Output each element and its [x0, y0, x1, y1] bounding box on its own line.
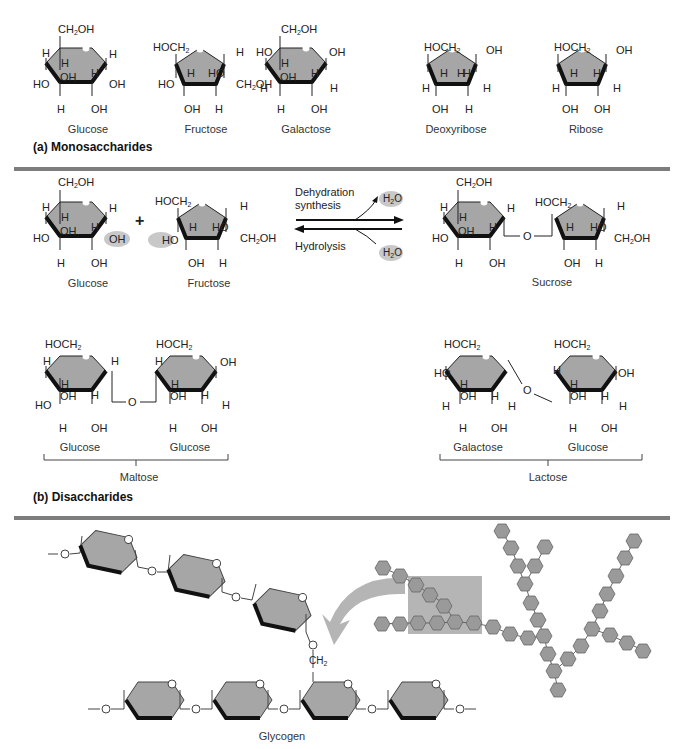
reactant-fructose-label: Fructose: [188, 277, 231, 289]
monosaccharides-section-title: (a) Monosaccharides: [33, 140, 152, 154]
reactant-glucose-ring: [46, 190, 106, 250]
fructose-label: Fructose: [185, 123, 228, 135]
plus-sign: +: [135, 212, 144, 230]
reactant-glucose-label: Glucose: [68, 277, 108, 289]
section-separator: [14, 516, 670, 520]
galactose-label: Galactose: [281, 123, 331, 135]
section-separator: [14, 167, 670, 171]
galactose-ring: [266, 36, 326, 96]
carbohydrate-diagram: CH2OH HH HOH HHO OHH OH HOCH2H HHO HOCH2…: [0, 0, 682, 749]
glycogen-branch-tree: [374, 524, 651, 697]
lactose-unit2-label: Glucose: [568, 441, 608, 453]
lactose-label: Lactose: [529, 471, 568, 483]
lactose-unit1-label: Galactose: [453, 441, 503, 453]
hydrolysis-label: Hydrolysis: [295, 240, 346, 252]
dehydration-label-line2: synthesis: [295, 199, 341, 211]
ch2-branch-label: CH2: [309, 655, 327, 667]
glycogen-label: Glycogen: [259, 730, 305, 742]
sucrose-label: Sucrose: [532, 276, 572, 288]
water-reactant-label: H2O: [383, 247, 402, 259]
maltose-label: Maltose: [120, 471, 159, 483]
zoom-arrow: [322, 578, 405, 645]
disaccharides-section-title: (b) Disaccharides: [33, 490, 133, 504]
maltose-unit1-label: Glucose: [60, 441, 100, 453]
deoxyribose-label: Deoxyribose: [425, 123, 486, 135]
dehydration-label-line1: Dehydration: [295, 186, 354, 198]
glycogen-upper-chain: [48, 526, 317, 668]
glucose-label: Glucose: [68, 123, 108, 135]
glucose-ring: [46, 36, 106, 96]
glycogen-main-chain: [88, 672, 476, 718]
ribose-label: Ribose: [569, 123, 603, 135]
water-product-label: H2O: [383, 193, 402, 205]
maltose-unit2-label: Glucose: [170, 441, 210, 453]
